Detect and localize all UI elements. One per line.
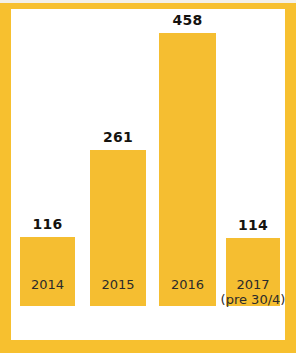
- x-tick-text-2017: 2017: [236, 277, 269, 292]
- x-tick-sublabel-2017: (pre 30/4): [208, 292, 296, 307]
- bar-value-label-2014: 116: [6, 216, 89, 232]
- bar-value-label-2015: 261: [76, 129, 160, 145]
- bars-layer: 116 2014 261 2015 458 2016 114 2017(pre …: [11, 9, 285, 340]
- bar-group-2016: 458 2016: [159, 9, 216, 306]
- bar-group-2014: 116 2014: [20, 9, 75, 306]
- x-tick-text-2016: 2016: [171, 277, 204, 292]
- bar-value-label-2016: 458: [145, 12, 230, 28]
- bar-rect-2016[interactable]: [159, 33, 216, 306]
- top-edge-strip: [0, 0, 296, 3]
- bar-group-2015: 261 2015: [90, 9, 146, 306]
- bar-value-label-2017: 114: [212, 217, 294, 233]
- bar-rect-2014[interactable]: [20, 237, 75, 306]
- plot-area: 116 2014 261 2015 458 2016 114 2017(pre …: [11, 9, 285, 340]
- bar-group-2017: 114 2017(pre 30/4): [226, 9, 280, 306]
- chart-frame: 116 2014 261 2015 458 2016 114 2017(pre …: [0, 0, 296, 353]
- x-tick-label-2017: 2017(pre 30/4): [208, 277, 296, 307]
- x-tick-text-2015: 2015: [101, 277, 134, 292]
- x-tick-text-2014: 2014: [31, 277, 64, 292]
